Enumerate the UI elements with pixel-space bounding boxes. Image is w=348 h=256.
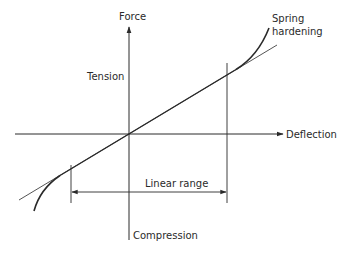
linear-range-label: Linear range (145, 178, 208, 189)
spring-hardening-curve-lower (34, 176, 60, 212)
linear-characteristic (60, 70, 236, 176)
spring-hardening-label-line1: Spring (272, 13, 304, 24)
spring-hardening-curve-upper (236, 28, 269, 70)
y-axis-label: Force (119, 11, 146, 22)
force-deflection-diagram: Force Deflection Tension Compression Spr… (0, 0, 348, 256)
x-axis-label: Deflection (286, 129, 337, 140)
tension-label: Tension (86, 71, 124, 82)
compression-label: Compression (133, 230, 198, 241)
spring-hardening-label-line2: hardening (272, 26, 323, 37)
